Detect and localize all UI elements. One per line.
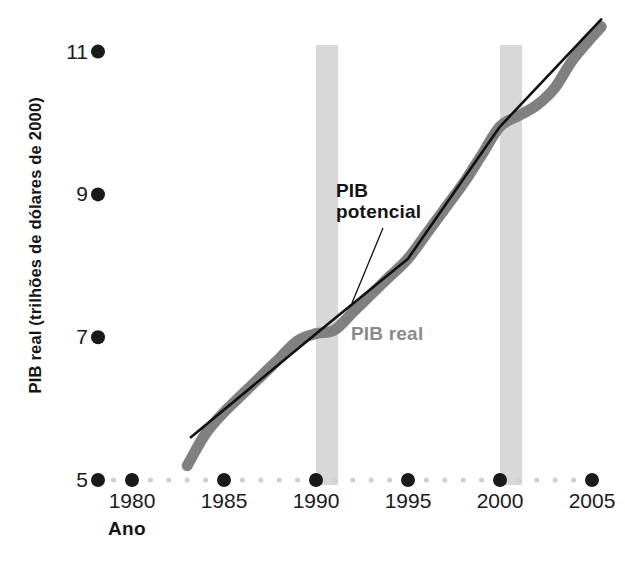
series-line-pib-potencial (191, 19, 601, 437)
x-tick-label: 1980 (92, 490, 172, 511)
x-tick-minor-dot (148, 477, 153, 482)
x-tick-label: 1995 (368, 490, 448, 511)
x-tick-minor-dot (332, 477, 337, 482)
recession-band-1990 (316, 45, 338, 485)
x-tick-major-dot (309, 473, 323, 487)
x-tick-minor-dot (203, 477, 208, 482)
x-tick-major-dot (217, 473, 231, 487)
x-tick-minor-dot (571, 477, 576, 482)
annotation-pib-potencial-line1: PIB (336, 180, 368, 201)
y-tick-label: 9 (48, 183, 88, 204)
y-axis-title: PIB real (trilhões de dólares de 2000) (27, 35, 44, 455)
x-axis-tick-dots (93, 473, 599, 487)
shaded-bands (316, 45, 522, 485)
y-axis-tick-dots (91, 45, 105, 487)
x-tick-minor-dot (240, 477, 245, 482)
x-tick-minor-dot (442, 477, 447, 482)
y-tick-label: 11 (48, 41, 88, 62)
y-tick-label: 5 (48, 469, 88, 490)
x-tick-minor-dot (424, 477, 429, 482)
x-tick-major-dot (493, 473, 507, 487)
x-tick-label: 2005 (552, 490, 625, 511)
x-tick-minor-dot (461, 477, 466, 482)
y-tick-major-dot (91, 45, 105, 59)
x-tick-major-dot (401, 473, 415, 487)
x-tick-label: 1985 (184, 490, 264, 511)
x-tick-minor-dot (277, 477, 282, 482)
annotation-pib-potencial-line2: potencial (336, 201, 421, 222)
x-tick-minor-dot (369, 477, 374, 482)
x-tick-minor-dot (516, 477, 521, 482)
x-tick-label: 1990 (276, 490, 356, 511)
x-tick-minor-dot (166, 477, 171, 482)
x-tick-major-dot (125, 473, 139, 487)
y-tick-label: 7 (48, 326, 88, 347)
x-tick-minor-dot (185, 477, 190, 482)
x-tick-major-dot (585, 473, 599, 487)
x-tick-minor-dot (387, 477, 392, 482)
annotation-pib-real: PIB real (351, 324, 423, 345)
x-tick-minor-dot (479, 477, 484, 482)
x-tick-minor-dot (534, 477, 539, 482)
x-tick-minor-dot (553, 477, 558, 482)
series-line-pib-real (187, 27, 601, 466)
chart-figure: 57911 198019851990199520002005 PIB real … (0, 0, 625, 561)
x-tick-label: 2000 (460, 490, 540, 511)
chart-plot-area (0, 0, 625, 561)
x-tick-minor-dot (111, 477, 116, 482)
x-axis-title: Ano (108, 519, 146, 538)
y-tick-major-dot (91, 473, 105, 487)
x-tick-minor-dot (350, 477, 355, 482)
y-tick-major-dot (91, 330, 105, 344)
x-tick-minor-dot (258, 477, 263, 482)
y-tick-major-dot (91, 187, 105, 201)
x-tick-minor-dot (295, 477, 300, 482)
annotation-pib-potencial: PIB potencial (336, 181, 456, 222)
